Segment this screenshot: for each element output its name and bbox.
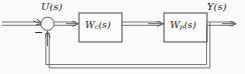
input-signal-line — [2, 21, 43, 25]
plant-block-label: Wp(s) — [170, 20, 196, 31]
output-signal-line — [207, 22, 236, 25]
summing-junction-negative-sign: − — [34, 27, 43, 38]
output-signal-label: Y(s) — [207, 2, 227, 12]
input-signal-label: U(s) — [41, 2, 62, 12]
block-diagram-figure: U(s) Y(s) − Wc(s) Wp(s) — [0, 0, 245, 74]
controller-block-arg: (s) — [98, 19, 110, 30]
controller-to-plant-line — [122, 22, 163, 25]
plant-block-arg: (s) — [184, 19, 196, 30]
controller-block-label: Wc(s) — [85, 20, 111, 31]
error-signal-line — [54, 22, 78, 25]
